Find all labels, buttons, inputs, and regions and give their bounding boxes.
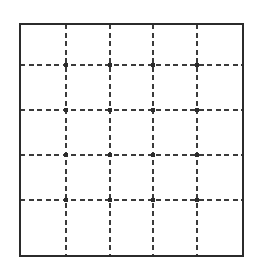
grid-node-4 — [195, 63, 199, 67]
grid-node-14 — [108, 198, 112, 202]
outer-square-border — [20, 24, 243, 256]
grid-node-15 — [151, 198, 155, 202]
grid-node-8 — [195, 108, 199, 112]
grid-dashed-lines — [20, 24, 243, 256]
grid-node-5 — [64, 108, 68, 112]
figure-canvas — [0, 0, 260, 271]
grid-node-9 — [64, 153, 68, 157]
grid-node-12 — [195, 153, 199, 157]
grid-intersection-dots — [64, 63, 199, 202]
grid-node-16 — [195, 198, 199, 202]
grid-node-6 — [108, 108, 112, 112]
grid-node-13 — [64, 198, 68, 202]
grid-node-10 — [108, 153, 112, 157]
grid-node-3 — [151, 63, 155, 67]
grid-node-11 — [151, 153, 155, 157]
dashed-grid-figure — [0, 0, 260, 271]
grid-node-1 — [64, 63, 68, 67]
outer-square — [20, 24, 243, 256]
grid-node-7 — [151, 108, 155, 112]
grid-node-2 — [108, 63, 112, 67]
